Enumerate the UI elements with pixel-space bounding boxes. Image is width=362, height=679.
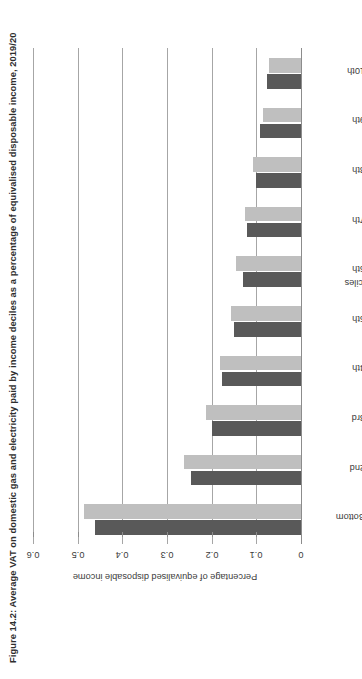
value-axis-tick-label: 0.6	[17, 550, 49, 560]
bar-series-a-5th	[231, 306, 301, 321]
category-label-8th: 8th	[307, 165, 362, 175]
bar-series-a-bottom	[84, 504, 301, 519]
axis-tick	[167, 532, 168, 537]
category-label-3rd: 3rd	[307, 413, 362, 423]
decile-group	[33, 197, 301, 247]
category-label-10th: 10th	[307, 66, 362, 76]
decile-group	[33, 346, 301, 396]
bar-series-b-8th	[256, 173, 301, 188]
decile-group	[33, 296, 301, 346]
category-label-6th: 6th	[307, 264, 362, 274]
decile-group	[33, 246, 301, 296]
decile-group	[33, 445, 301, 495]
bar-series-b-10th	[267, 74, 301, 89]
bar-series-b-9th	[260, 124, 301, 139]
bar-series-b-bottom	[95, 520, 301, 535]
chart-area: Percentage of equivalised disposable inc…	[25, 36, 362, 656]
category-label-5th: 5th	[307, 314, 362, 324]
value-axis-tick-label: 0.4	[106, 550, 138, 560]
axis-tick	[256, 532, 257, 537]
bar-series-b-5th	[234, 322, 301, 337]
bar-series-a-4th	[220, 356, 301, 371]
axis-tick	[33, 532, 34, 537]
bar-series-b-7th	[247, 223, 301, 238]
value-axis-tick-label: 0.1	[240, 550, 272, 560]
plot-area	[33, 48, 302, 544]
bar-series-a-7th	[245, 207, 301, 222]
category-label-9th: 9th	[307, 115, 362, 125]
value-axis-tick-label: 0.5	[62, 550, 94, 560]
bar-series-b-2nd	[191, 471, 301, 486]
decile-group	[33, 395, 301, 445]
value-axis-tick-label: 0.3	[151, 550, 183, 560]
figure-page: Figure 14.2: Average VAT on domestic gas…	[0, 0, 362, 679]
value-axis-tick-label: 0.2	[196, 550, 228, 560]
category-label-bottom: Bottom	[307, 512, 362, 522]
bar-series-a-9th	[263, 108, 301, 123]
category-label-4th: 4th	[307, 363, 362, 373]
category-label-7th: 7th	[307, 215, 362, 225]
category-axis-title: Equivalised disposable income deciles	[293, 278, 362, 288]
decile-group	[33, 147, 301, 197]
axis-tick	[78, 532, 79, 537]
bar-series-b-4th	[222, 372, 301, 387]
category-label-2nd: 2nd	[307, 463, 362, 473]
axis-tick	[212, 532, 213, 537]
bar-series-a-10th	[269, 58, 301, 73]
bar-series-a-6th	[236, 256, 301, 271]
bar-series-a-3rd	[206, 405, 301, 420]
value-axis-title: Percentage of equivalised disposable inc…	[19, 572, 311, 582]
bar-series-a-8th	[253, 157, 301, 172]
decile-group	[33, 48, 301, 98]
decile-group	[33, 98, 301, 148]
value-axis-tick-label: 0	[285, 550, 317, 560]
axis-tick	[122, 532, 123, 537]
axis-tick	[301, 532, 302, 537]
bar-series-b-3rd	[212, 421, 301, 436]
bar-series-a-2nd	[184, 455, 301, 470]
